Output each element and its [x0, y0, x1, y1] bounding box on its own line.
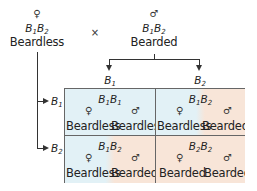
- male-parent-phenotype: Bearded: [131, 36, 178, 49]
- female-gamete-b2: B2: [51, 142, 63, 158]
- punnett-cell-b1b2-bottom: B1B2 ♀ ♂ Beardless Bearded: [65, 136, 155, 183]
- male-phenotype: Bearded: [111, 167, 155, 180]
- cell-genotype: B1B1: [65, 93, 155, 109]
- male-branch-line: [109, 59, 200, 60]
- female-phenotype: Bearded: [159, 167, 206, 180]
- female-symbol-icon: ♀: [85, 106, 92, 116]
- male-symbol-icon: ♂: [131, 106, 140, 116]
- female-symbol-icon: ♀: [33, 9, 40, 19]
- punnett-cell-b2b2: B2B2 ♀ ♂ Bearded Bearded: [156, 136, 245, 183]
- male-symbol-icon: ♂: [150, 9, 159, 19]
- male-symbol-icon: ♂: [223, 153, 232, 163]
- male-phenotype: Beardless: [111, 120, 155, 133]
- grid-horizontal-divider: [65, 135, 244, 136]
- arrow-right-icon: [43, 145, 49, 151]
- female-gamete-b1: B1: [51, 95, 63, 111]
- arrow-right-icon: [43, 98, 49, 104]
- male-phenotype: Bearded: [202, 120, 245, 133]
- female-symbol-icon: ♀: [176, 153, 183, 163]
- cell-genotype: B1B2: [65, 140, 155, 156]
- punnett-cell-b1b1: B1B1 ♀ ♂ Beardless Beardless: [65, 89, 155, 135]
- female-symbol-icon: ♀: [85, 153, 92, 163]
- punnett-cell-b1b2-top: B1B2 ♀ ♂ Beardless Bearded: [156, 89, 245, 135]
- female-symbol-icon: ♀: [176, 106, 183, 116]
- female-parent-phenotype: Beardless: [10, 36, 64, 49]
- male-symbol-icon: ♂: [131, 153, 140, 163]
- arrow-down-icon: [106, 65, 112, 71]
- cross-symbol: ×: [91, 27, 99, 38]
- arrow-down-icon: [196, 65, 202, 71]
- male-phenotype: Bearded: [204, 167, 245, 180]
- male-symbol-icon: ♂: [223, 106, 232, 116]
- punnett-square: B1B1 ♀ ♂ Beardless Beardless B1B2 ♀ ♂ Be…: [64, 88, 245, 183]
